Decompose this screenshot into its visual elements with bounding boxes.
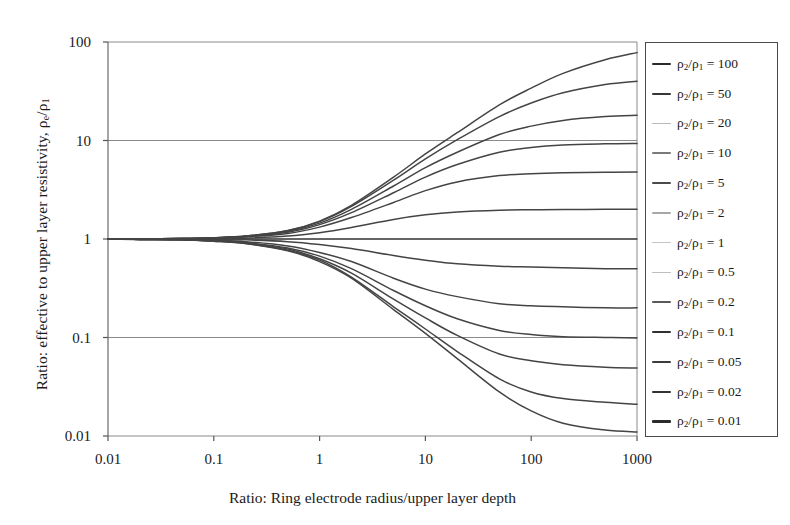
x-tick-label: 10 [418, 452, 433, 467]
legend-item[interactable]: ρ2/ρ1 = 0.1 [652, 317, 777, 347]
legend-box: ρ2/ρ1 = 100ρ2/ρ1 = 50ρ2/ρ1 = 20ρ2/ρ1 = 1… [645, 42, 778, 437]
data-series-line [108, 239, 637, 308]
x-tick-label: 100 [520, 452, 543, 467]
legend-item-label: ρ2/ρ1 = 0.02 [677, 384, 741, 400]
y-tick-label: 10 [76, 133, 91, 148]
legend-item-label: ρ2/ρ1 = 0.2 [677, 294, 735, 310]
legend-item-label: ρ2/ρ1 = 5 [677, 175, 725, 191]
x-tick-label: 1000 [622, 452, 652, 467]
legend-color-swatch [652, 361, 671, 363]
x-tick-label: 0.01 [95, 452, 121, 467]
y-tick-label: 0.1 [72, 330, 91, 345]
chart-figure: Ratio: effective to upper layer resistiv… [0, 0, 790, 525]
legend-item[interactable]: ρ2/ρ1 = 100 [652, 49, 777, 79]
y-axis-title: Ratio: effective to upper layer resistiv… [33, 34, 51, 454]
legend-color-swatch [652, 63, 671, 65]
legend-color-swatch [652, 212, 671, 214]
legend-color-swatch [652, 272, 671, 274]
data-series-line [108, 239, 637, 338]
legend-color-swatch [652, 242, 671, 244]
legend-color-swatch [652, 301, 671, 303]
data-series-line [108, 81, 637, 239]
legend-item-label: ρ2/ρ1 = 1 [677, 235, 725, 251]
legend-color-swatch [652, 182, 671, 184]
x-tick-label: 1 [316, 452, 324, 467]
y-tick-label: 0.01 [65, 429, 91, 444]
legend-color-swatch [652, 152, 671, 154]
legend-item-label: ρ2/ρ1 = 50 [677, 86, 731, 102]
legend-item-label: ρ2/ρ1 = 100 [677, 56, 738, 72]
data-series-line [108, 115, 637, 239]
legend-item[interactable]: ρ2/ρ1 = 1 [652, 228, 777, 258]
legend-color-swatch [652, 123, 671, 125]
legend-color-swatch [652, 391, 671, 393]
legend-item-label: ρ2/ρ1 = 0.01 [677, 413, 741, 429]
legend-item[interactable]: ρ2/ρ1 = 0.02 [652, 377, 777, 407]
legend-item-label: ρ2/ρ1 = 20 [677, 115, 731, 131]
data-series-line [108, 172, 637, 239]
legend-item[interactable]: ρ2/ρ1 = 10 [652, 138, 777, 168]
legend-item[interactable]: ρ2/ρ1 = 20 [652, 109, 777, 139]
data-series-line [108, 239, 637, 368]
legend-item-label: ρ2/ρ1 = 0.05 [677, 354, 741, 370]
legend-item-label: ρ2/ρ1 = 0.1 [677, 324, 735, 340]
legend-item[interactable]: ρ2/ρ1 = 2 [652, 198, 777, 228]
legend-color-swatch [652, 93, 671, 95]
legend-item[interactable]: ρ2/ρ1 = 5 [652, 168, 777, 198]
y-tick-label: 100 [69, 35, 92, 50]
y-tick-label: 1 [84, 232, 92, 247]
x-axis-title: Ratio: Ring electrode radius/upper layer… [108, 489, 637, 507]
legend-item-label: ρ2/ρ1 = 2 [677, 205, 725, 221]
legend-item[interactable]: ρ2/ρ1 = 50 [652, 79, 777, 109]
data-series-line [108, 209, 637, 239]
legend-item[interactable]: ρ2/ρ1 = 0.01 [652, 407, 777, 437]
legend-color-swatch [652, 331, 671, 333]
legend-item[interactable]: ρ2/ρ1 = 0.5 [652, 258, 777, 288]
legend-color-swatch [652, 420, 671, 422]
data-series-line [108, 239, 637, 269]
legend-item-label: ρ2/ρ1 = 0.5 [677, 264, 735, 280]
legend-item[interactable]: ρ2/ρ1 = 0.05 [652, 347, 777, 377]
legend-item-label: ρ2/ρ1 = 10 [677, 145, 731, 161]
legend-item[interactable]: ρ2/ρ1 = 0.2 [652, 287, 777, 317]
data-series-line [108, 239, 637, 404]
x-tick-label: 0.1 [204, 452, 223, 467]
